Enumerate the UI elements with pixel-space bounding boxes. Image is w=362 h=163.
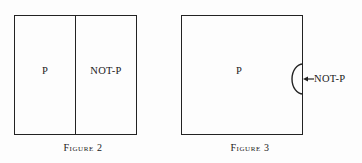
figure-sheet: P NOT-P Figure 2 P NOT-P Figure 3 [0, 0, 362, 163]
figure-3-not-p-label: NOT-P [314, 74, 345, 85]
figure-2-not-p-label: NOT-P [81, 66, 131, 77]
figure-3-p-label: P [229, 66, 249, 77]
figure-2-p-label: P [35, 66, 55, 77]
figure-3-caption: Figure 3 [200, 143, 300, 153]
figure-2-divider [75, 15, 76, 135]
figure-2-caption: Figure 2 [33, 143, 133, 153]
